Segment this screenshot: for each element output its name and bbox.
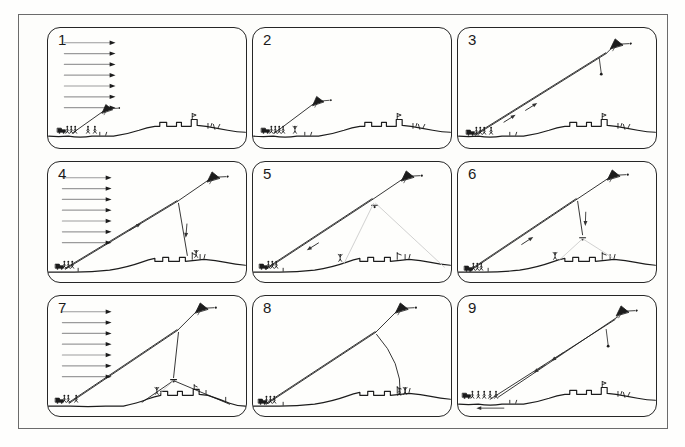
panel-number: 4 <box>58 165 67 182</box>
light-line <box>159 381 174 395</box>
cart-icon <box>260 264 268 270</box>
ground-crew <box>66 126 77 133</box>
ground-crew <box>472 263 483 270</box>
line <box>177 180 208 202</box>
stick-figure <box>270 126 273 133</box>
cart-icon <box>463 393 471 399</box>
direction-arrow-icon <box>503 113 517 124</box>
kite-icon <box>206 169 230 184</box>
scene-svg <box>253 162 451 282</box>
terrain-profile <box>49 252 246 272</box>
stick-figure <box>338 254 342 261</box>
stick-figure <box>93 126 96 133</box>
scene-svg <box>48 296 246 416</box>
stick-figure <box>483 391 486 398</box>
kite-icon <box>400 168 424 183</box>
line <box>142 381 173 403</box>
panel-number: 2 <box>263 31 272 48</box>
panel-4: 4 <box>47 161 247 283</box>
scene-svg <box>253 296 451 416</box>
terrain-profile <box>49 114 246 138</box>
panel-8: 8 <box>252 295 452 417</box>
panel-number: 8 <box>263 299 272 316</box>
panel-grid: 123456789 <box>47 27 657 417</box>
line <box>577 178 609 200</box>
kite-icon <box>311 94 333 108</box>
cart-icon <box>57 128 65 134</box>
ground-crew <box>270 126 285 133</box>
kite-icon <box>615 303 639 318</box>
terrain-profile <box>254 386 451 406</box>
scene-svg <box>458 162 656 282</box>
scanned-diagram-page: 123456789 <box>0 0 685 447</box>
line <box>174 332 179 377</box>
panel-number: 5 <box>263 165 272 182</box>
drop-line <box>377 334 401 394</box>
stick-figure <box>87 126 90 133</box>
terrain-profile <box>459 252 656 272</box>
scene-svg <box>48 28 246 148</box>
terrain-profile <box>459 382 656 406</box>
cart-icon <box>56 398 64 404</box>
kite-icon <box>100 102 120 115</box>
stick-figure <box>66 126 69 133</box>
line <box>274 104 313 134</box>
cart-icon <box>467 130 475 136</box>
kite-icon <box>194 300 218 315</box>
panel-3: 3 <box>457 27 657 149</box>
stick-figure <box>74 126 77 133</box>
panel-1: 1 <box>47 27 247 149</box>
terrain-profile <box>254 252 451 272</box>
terrain-profile <box>254 114 451 138</box>
direction-arrow-icon <box>583 212 587 226</box>
cart-icon <box>56 264 64 270</box>
ground-crew <box>267 261 278 268</box>
stick-figure <box>553 252 557 259</box>
haul-arrow-icon <box>476 406 504 410</box>
panel-7: 7 <box>47 295 247 417</box>
wind-arrow-icons <box>64 41 115 110</box>
panel-number: 7 <box>58 299 67 316</box>
kite-icon <box>609 36 633 51</box>
panel-number: 6 <box>468 165 477 182</box>
scene-svg <box>458 28 656 148</box>
pendant-weight-icon <box>606 329 609 347</box>
light-line <box>344 203 374 263</box>
kite-main-line <box>266 332 376 405</box>
pendant-weight-icon <box>599 58 602 75</box>
scene-svg <box>253 28 451 148</box>
line <box>72 112 102 134</box>
panel-6: 6 <box>457 161 657 283</box>
stick-figure <box>278 126 281 133</box>
cart-icon <box>465 266 473 272</box>
panel-2: 2 <box>252 27 452 149</box>
panel-number: 3 <box>468 31 477 48</box>
stick-figure <box>490 127 493 134</box>
panel-number: 9 <box>468 299 477 316</box>
kite-icon <box>606 167 630 182</box>
direction-arrow-icon <box>521 235 535 246</box>
cart-icon <box>262 128 270 134</box>
wind-arrow-icons <box>62 176 111 245</box>
line <box>177 311 197 331</box>
stick-figure <box>471 391 474 398</box>
stick-figure <box>477 391 480 398</box>
line <box>373 179 403 200</box>
ground-crew <box>475 127 486 134</box>
stick-figure <box>489 391 492 398</box>
terrain-profile <box>49 385 246 407</box>
panel-number: 1 <box>58 31 67 48</box>
direction-arrow-icon <box>306 241 320 252</box>
direction-arrow-icon <box>184 224 189 238</box>
stick-figure <box>67 395 70 402</box>
line <box>178 203 187 255</box>
ground-crew <box>63 395 70 402</box>
scene-svg <box>458 296 656 416</box>
panel-5: 5 <box>252 161 452 283</box>
panel-9: 9 <box>457 295 657 417</box>
stick-figure <box>70 126 73 133</box>
kite-main-line <box>469 199 577 272</box>
light-line <box>583 239 613 258</box>
wind-arrow-icons <box>62 310 111 379</box>
stick-figure <box>194 250 198 257</box>
